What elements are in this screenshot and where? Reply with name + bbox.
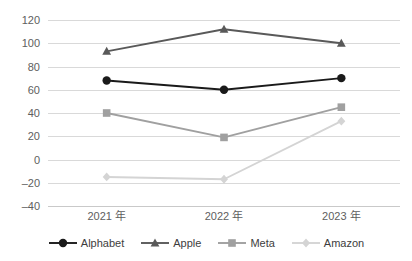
x-axis-tick-label: 2022 年 bbox=[205, 210, 244, 223]
data-point-marker bbox=[59, 239, 67, 247]
legend-item-amazon[interactable]: Amazon bbox=[291, 237, 364, 249]
data-point-marker bbox=[103, 173, 111, 182]
y-axis: 120100806040200–20–40 bbox=[0, 20, 40, 206]
y-axis-tick-label: 0 bbox=[2, 154, 40, 165]
series-apple bbox=[102, 25, 345, 55]
plot-area bbox=[48, 20, 400, 206]
data-point-marker bbox=[337, 117, 345, 126]
legend-item-alphabet[interactable]: Alphabet bbox=[48, 237, 124, 249]
y-axis-tick-label: –20 bbox=[2, 177, 40, 188]
chart-legend: AlphabetAppleMetaAmazon bbox=[0, 237, 412, 249]
series-line bbox=[107, 121, 342, 179]
series-layer bbox=[48, 20, 400, 206]
data-point-marker bbox=[229, 239, 237, 247]
y-axis-tick-label: 80 bbox=[2, 61, 40, 72]
x-axis-tick-label: 2023 年 bbox=[322, 210, 361, 223]
y-axis-tick-label: 40 bbox=[2, 108, 40, 119]
data-point-marker bbox=[338, 103, 346, 111]
line-chart: 120100806040200–20–40 2021 年2022 年2023 年… bbox=[0, 0, 412, 261]
legend-label: Alphabet bbox=[81, 238, 124, 249]
legend-label: Apple bbox=[173, 238, 201, 249]
data-point-marker bbox=[103, 109, 111, 117]
y-axis-tick-label: 100 bbox=[2, 38, 40, 49]
legend-swatch-triangle-icon bbox=[140, 237, 170, 249]
legend-swatch-circle-icon bbox=[48, 237, 78, 249]
y-axis-tick-label: 20 bbox=[2, 131, 40, 142]
legend-item-apple[interactable]: Apple bbox=[140, 237, 201, 249]
data-point-marker bbox=[102, 76, 110, 84]
series-alphabet bbox=[102, 74, 345, 94]
data-point-marker bbox=[302, 239, 310, 248]
legend-label: Amazon bbox=[324, 238, 364, 249]
data-point-marker bbox=[220, 134, 228, 142]
y-axis-tick-label: 120 bbox=[2, 15, 40, 26]
series-meta bbox=[103, 103, 345, 141]
series-amazon bbox=[103, 117, 346, 184]
data-point-marker bbox=[337, 74, 345, 82]
legend-swatch-square-icon bbox=[217, 237, 247, 249]
x-axis: 2021 年2022 年2023 年 bbox=[48, 210, 400, 228]
gridline bbox=[48, 206, 400, 207]
data-point-marker bbox=[220, 86, 228, 94]
data-point-marker bbox=[220, 175, 228, 184]
data-point-marker bbox=[220, 25, 229, 33]
y-axis-tick-label: –40 bbox=[2, 201, 40, 212]
series-line bbox=[107, 107, 342, 137]
y-axis-tick-label: 60 bbox=[2, 84, 40, 95]
legend-item-meta[interactable]: Meta bbox=[217, 237, 274, 249]
x-axis-tick-label: 2021 年 bbox=[87, 210, 126, 223]
legend-swatch-diamond-icon bbox=[291, 237, 321, 249]
legend-label: Meta bbox=[250, 238, 274, 249]
